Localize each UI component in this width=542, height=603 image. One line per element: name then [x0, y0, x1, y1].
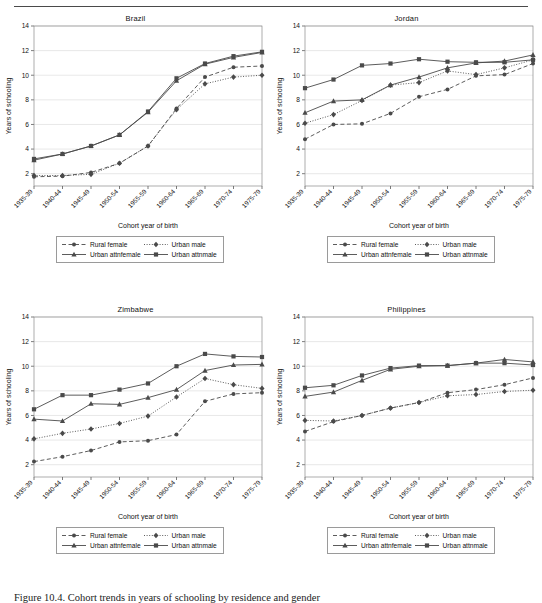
x-tick-label: 1950-54	[369, 478, 391, 500]
x-tick-label: 1935-39	[12, 478, 34, 500]
data-point	[303, 86, 307, 90]
y-tick-label: 10	[22, 363, 30, 370]
legend-swatch-rural_female	[61, 240, 87, 249]
data-point	[502, 361, 506, 365]
header-rule	[14, 6, 528, 7]
plot-area-0: 24681012141935-391940-441945-491950-5419…	[0, 10, 271, 301]
x-tick-label: 1965-69	[183, 478, 205, 500]
data-point	[416, 400, 421, 406]
x-tick-label: 1935-39	[12, 187, 34, 209]
data-point	[203, 399, 207, 403]
legend-swatch-rural_female	[332, 531, 358, 540]
data-point	[145, 413, 150, 419]
plot-area-3: 24681012141935-391940-441945-491950-5419…	[271, 301, 542, 590]
x-tick-label: 1975-79	[240, 187, 262, 209]
data-point	[474, 60, 478, 64]
y-tick-label: 14	[293, 313, 301, 320]
data-point	[61, 455, 65, 459]
y-tick-label: 8	[296, 96, 300, 103]
y-tick-label: 12	[293, 47, 301, 54]
data-point	[60, 152, 64, 156]
data-point	[473, 392, 478, 398]
legend-item-urban_attnmale: Urban attnmale	[143, 541, 219, 550]
legend-swatch-urban_attnmale	[414, 250, 440, 259]
y-tick-label: 10	[22, 72, 30, 79]
data-point	[259, 72, 264, 78]
data-point	[203, 75, 207, 79]
y-tick-label: 4	[25, 436, 29, 443]
data-point	[174, 76, 178, 80]
series-line	[34, 364, 262, 421]
legend-swatch-urban_attnmale	[414, 541, 440, 550]
legend-label: Urban male	[443, 532, 477, 539]
legend-label: Rural female	[361, 532, 398, 539]
figure-panel-grid: Brazil 24681012141935-391940-441945-4919…	[0, 10, 542, 590]
y-tick-label: 4	[296, 145, 300, 152]
data-point	[531, 376, 535, 380]
x-tick-label: 1950-54	[98, 478, 120, 500]
data-point	[174, 387, 179, 392]
y-tick-label: 2	[296, 461, 300, 468]
x-tick-label: 1960-64	[426, 187, 448, 209]
legend-item-urban_attnfemale: Urban attnfemale	[61, 541, 141, 550]
legend-label: Urban attnmale	[172, 251, 217, 258]
y-tick-label: 14	[293, 22, 301, 29]
data-point	[416, 80, 421, 86]
data-point	[360, 63, 364, 67]
legend-item-urban_attnfemale: Urban attnfemale	[332, 541, 412, 550]
legend-label: Urban male	[443, 241, 477, 248]
x-tick-label: 1960-64	[426, 478, 448, 500]
legend-swatch-urban_male	[414, 240, 440, 249]
series-line	[34, 66, 262, 177]
data-point	[331, 112, 336, 118]
series-line	[305, 60, 533, 123]
x-axis-title: Cohort year of birth	[389, 222, 449, 230]
data-point	[146, 109, 150, 113]
data-point	[388, 366, 392, 370]
y-axis-title: Years of schooling	[5, 77, 13, 134]
data-point	[32, 157, 36, 161]
x-tick-label: 1950-54	[98, 187, 120, 209]
data-point	[88, 426, 93, 432]
legend-label: Rural female	[90, 532, 127, 539]
legend-item-urban_attnmale: Urban attnmale	[143, 250, 219, 259]
data-point	[231, 54, 235, 58]
data-point	[260, 50, 264, 54]
data-point	[360, 122, 364, 126]
y-axis-title: Years of schooling	[276, 77, 284, 134]
y-tick-label: 6	[296, 412, 300, 419]
legend-swatch-urban_attnfemale	[61, 250, 87, 259]
data-point	[174, 394, 179, 400]
y-tick-label: 10	[293, 72, 301, 79]
legend-label: Rural female	[361, 241, 398, 248]
y-tick-label: 2	[25, 170, 29, 177]
data-point	[417, 57, 421, 61]
data-point	[32, 407, 36, 411]
data-point	[331, 383, 335, 387]
legend-item-urban_attnmale: Urban attnmale	[414, 250, 490, 259]
series-line	[34, 75, 262, 175]
data-point	[388, 61, 392, 65]
y-tick-label: 4	[296, 436, 300, 443]
legend-label: Urban attnfemale	[90, 542, 141, 549]
data-point	[146, 439, 150, 443]
x-tick-label: 1960-64	[155, 478, 177, 500]
legend-swatch-urban_attnmale	[143, 250, 169, 259]
legend-item-urban_male: Urban male	[143, 531, 219, 540]
data-point	[502, 60, 506, 64]
chart-panel-0: Brazil 24681012141935-391940-441945-4919…	[0, 10, 271, 301]
legend-swatch-urban_male	[143, 240, 169, 249]
data-point	[389, 111, 393, 115]
data-point	[302, 418, 307, 424]
data-point	[417, 364, 421, 368]
legend-swatch-rural_female	[61, 531, 87, 540]
legend-item-rural_female: Rural female	[61, 240, 141, 249]
x-axis-title: Cohort year of birth	[118, 222, 178, 230]
data-point	[531, 58, 535, 62]
x-tick-label: 1975-79	[511, 187, 533, 209]
chart-legend-2: Rural femaleUrban maleUrban attnfemaleUr…	[56, 527, 224, 554]
data-point	[530, 387, 535, 393]
legend-label: Urban attnfemale	[361, 542, 412, 549]
y-tick-label: 12	[22, 338, 30, 345]
y-tick-label: 6	[25, 412, 29, 419]
